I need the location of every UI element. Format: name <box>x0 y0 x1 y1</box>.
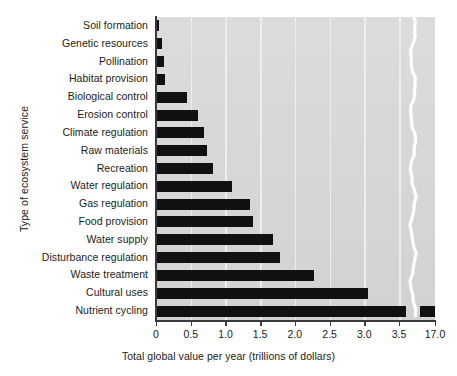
gridline <box>364 17 366 320</box>
x-tick-label: 1.0 <box>218 328 233 340</box>
x-tick-label: 0 <box>153 328 159 340</box>
bar <box>156 216 253 227</box>
y-axis-tick-label: Cultural uses <box>86 287 148 298</box>
y-axis-tick-label: Disturbance regulation <box>42 252 148 263</box>
y-axis-tick-label: Nutrient cycling <box>75 305 148 316</box>
x-tick-mark <box>399 321 400 326</box>
y-axis-tick-label: Pollination <box>99 56 148 67</box>
y-axis-title: Type of ecosystem service <box>18 105 30 231</box>
x-tick-mark <box>295 321 296 326</box>
y-axis-tick-label: Raw materials <box>81 145 148 156</box>
x-tick-mark <box>260 321 261 326</box>
x-tick-label: 2.0 <box>288 328 303 340</box>
bar <box>156 306 406 317</box>
bar <box>156 127 204 138</box>
x-tick-mark <box>191 321 192 326</box>
x-tick-label: 3.0 <box>357 328 372 340</box>
x-tick-label: 0.5 <box>183 328 198 340</box>
bar <box>156 74 165 85</box>
y-axis-tick-label: Soil formation <box>83 20 148 31</box>
x-axis-title: Total global value per year (trillions o… <box>0 350 457 362</box>
bar <box>156 199 250 210</box>
y-axis-tick-label: Habitat provision <box>69 73 148 84</box>
bar <box>156 234 273 245</box>
y-axis-tick-label: Gas regulation <box>79 198 148 209</box>
y-axis-title-container: Type of ecosystem service <box>14 17 34 320</box>
x-tick-label: 1.5 <box>253 328 268 340</box>
bar <box>156 163 213 174</box>
x-tick-mark <box>330 321 331 326</box>
y-axis-tick-label: Climate regulation <box>62 127 148 138</box>
y-axis-tick-label: Water regulation <box>71 180 148 191</box>
y-axis-tick-label: Waste treatment <box>71 269 148 280</box>
x-tick-mark <box>364 321 365 326</box>
x-tick-mark <box>156 321 157 326</box>
bar <box>420 306 435 317</box>
y-axis-tick-label: Erosion control <box>77 109 148 120</box>
y-axis-tick-labels: Soil formationGenetic resourcesPollinati… <box>36 17 152 320</box>
bar <box>156 145 207 156</box>
bar <box>156 252 280 263</box>
y-axis-tick-label: Genetic resources <box>62 38 148 49</box>
y-axis-line <box>155 16 157 321</box>
bar <box>156 181 232 192</box>
y-axis-tick-label: Recreation <box>97 163 148 174</box>
y-axis-tick-label: Biological control <box>68 91 148 102</box>
x-tick-mark <box>225 321 226 326</box>
bar <box>156 56 164 67</box>
y-axis-tick-label: Food provision <box>78 216 148 227</box>
plot-area <box>156 17 435 320</box>
gridline <box>399 17 401 320</box>
x-tick-mark <box>435 321 436 326</box>
bar <box>156 38 162 49</box>
x-tick-label: 17.0 <box>425 328 445 340</box>
bar <box>156 92 187 103</box>
y-axis-tick-label: Water supply <box>87 234 148 245</box>
bar <box>156 110 198 121</box>
gridline <box>330 17 332 320</box>
x-tick-label: 3.5 <box>392 328 407 340</box>
bar <box>156 288 368 299</box>
x-tick-label: 2.5 <box>322 328 337 340</box>
chart-figure: Type of ecosystem service Soil formation… <box>0 0 457 376</box>
bar <box>156 270 314 281</box>
axis-break-marker <box>406 17 420 320</box>
